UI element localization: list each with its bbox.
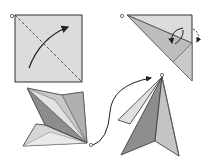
reference-dot-icon [10, 14, 13, 17]
origami-diagram [0, 0, 211, 166]
flip-arrow-icon [193, 29, 198, 42]
step-2-triangle [120, 14, 198, 81]
reference-dot-icon [89, 143, 92, 146]
step-3-folded-shape [23, 88, 93, 147]
step-1-square [10, 14, 82, 82]
reference-dot-icon [160, 73, 163, 76]
reference-dot-icon [120, 14, 123, 17]
